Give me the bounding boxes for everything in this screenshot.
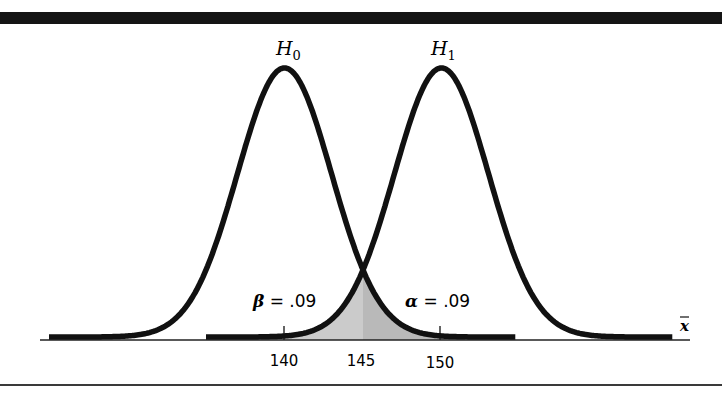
chart-canvas: H0 H1 β = .09 α = .09 140 145 150 x — [0, 0, 722, 396]
h1-label: H1 — [430, 37, 456, 63]
alpha-annotation: α = .09 — [405, 291, 470, 311]
x-axis-label: x — [679, 317, 690, 335]
tick-label-145: 145 — [347, 352, 376, 370]
hypothesis-test-figure: H0 H1 β = .09 α = .09 140 145 150 x — [0, 0, 722, 396]
h0-label: H0 — [275, 37, 301, 63]
tick-label-150: 150 — [426, 354, 455, 372]
tick-label-140: 140 — [270, 352, 299, 370]
beta-annotation: β = .09 — [252, 291, 316, 311]
bottom-frame-rule — [0, 384, 722, 386]
